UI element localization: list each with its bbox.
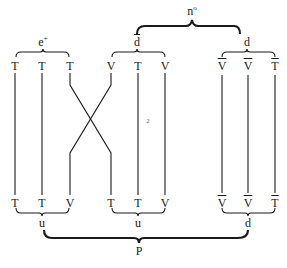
label-n0: no (187, 5, 197, 17)
top-label-7: V (218, 60, 227, 72)
top-label-6: V (161, 60, 170, 72)
top-label-2: T (38, 60, 45, 72)
bottom-label-3: V (66, 197, 75, 209)
quark-line-diagram: no e+ d d T T T V T V V V T 2 T T V T T … (0, 0, 287, 268)
label-u2: u (135, 217, 141, 229)
label-e-plus: e+ (38, 36, 47, 48)
top-label-9: T (271, 60, 278, 72)
label-d-top: d (244, 36, 250, 48)
label-d-bottom: d (245, 217, 251, 229)
label-d-bar: d (134, 36, 140, 48)
bottom-label-6: V (161, 197, 170, 209)
top-label-1: T (11, 60, 18, 72)
strand-3-cross (70, 73, 111, 195)
brace-n0 (137, 20, 240, 34)
marker-2: 2 (147, 118, 150, 124)
label-u1: u (39, 217, 45, 229)
top-label-4: V (107, 60, 116, 72)
brace-d-bar (112, 49, 165, 57)
bottom-label-7: V (218, 197, 227, 209)
top-label-8: V (244, 60, 253, 72)
bottom-label-9: T (271, 197, 278, 209)
bottom-label-4: T (107, 197, 114, 209)
brace-d (222, 49, 275, 57)
bottom-label-1: T (11, 197, 18, 209)
label-P: P (136, 245, 143, 257)
top-label-3: T (66, 60, 73, 72)
bottom-label-5: T (134, 197, 141, 209)
top-label-5: T (134, 60, 141, 72)
strand-4-cross (70, 73, 111, 195)
bottom-label-8: V (244, 197, 253, 209)
brace-P (44, 230, 248, 243)
brace-e-plus (16, 49, 69, 57)
bottom-label-2: T (38, 197, 45, 209)
